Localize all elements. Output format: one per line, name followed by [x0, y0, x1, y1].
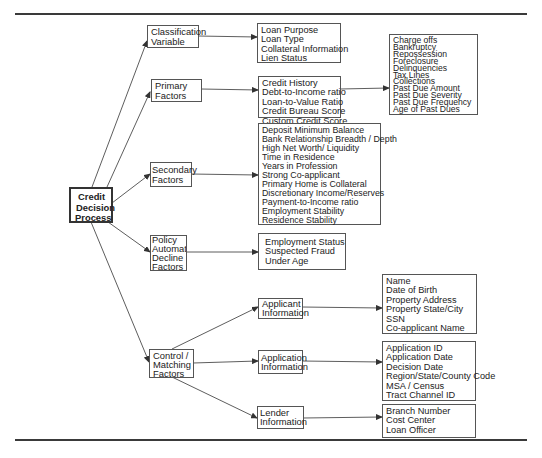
edge-control-application	[193, 361, 258, 363]
node-policy-automatic-decline-factors: Policy Automatic Decline Factors	[150, 235, 187, 271]
edge-root-classification	[92, 41, 147, 187]
list-item: Lien Status	[261, 54, 337, 63]
edge-classification-list	[198, 36, 257, 37]
node-classification-variable: Classification Variable	[147, 25, 199, 48]
node-label-line: Factors	[152, 175, 190, 185]
edge-applicant-list	[302, 307, 382, 308]
node-credit-decision-process: Credit Decision Process	[69, 187, 113, 223]
root-label-line: Credit	[75, 192, 109, 203]
list-item: Co-applicant Name	[386, 324, 473, 333]
node-label-line: Information	[261, 362, 300, 371]
edge-primarylist-subitems	[340, 88, 389, 89]
node-label-line: Factors	[153, 369, 190, 378]
node-secondary-factors: Secondary Factors	[150, 162, 192, 187]
edge-control-lender	[172, 377, 257, 418]
list-item: Loan Officer	[386, 426, 472, 435]
node-label-line: Information	[262, 308, 300, 317]
edge-lender-list	[303, 417, 382, 418]
node-label-line: Variable	[151, 37, 195, 47]
list-secondary-items: Deposit Minimum Balance Bank Relationshi…	[258, 123, 381, 225]
list-credit-history-details: Charge offs Bankruptcy Repossession Fore…	[389, 34, 478, 115]
edge-primary-list	[201, 89, 258, 90]
list-item: Under Age	[265, 257, 339, 266]
list-item: Residence Stability	[262, 216, 377, 225]
node-primary-factors: Primary Factors	[151, 79, 202, 102]
root-label-line: Process	[75, 213, 109, 224]
list-item: Tract Channel ID	[386, 391, 473, 400]
edge-root-primary	[107, 92, 150, 187]
node-label-line: Factors	[155, 91, 198, 101]
list-primary-items: Credit History Debt-to-Income ratio Loan…	[258, 76, 341, 118]
node-applicant-information: Applicant Information	[258, 298, 303, 319]
node-application-information: Application Information	[258, 350, 303, 374]
edge-secondary-list	[191, 174, 258, 175]
edge-control-applicant	[172, 307, 258, 349]
node-lender-information: Lender Information	[257, 406, 304, 429]
edge-root-secondary	[112, 174, 150, 203]
list-applicant-items: Name Date of Birth Property Address Prop…	[382, 274, 477, 334]
edge-root-control	[91, 222, 149, 362]
list-lender-items: Branch Number Cost Center Loan Officer	[382, 404, 476, 438]
node-label-line: Factors	[152, 263, 185, 271]
edge-application-list	[302, 361, 382, 362]
list-application-items: Application ID Application Date Decision…	[382, 341, 476, 401]
node-control-matching-factors: Control / Matching Factors	[149, 349, 194, 378]
node-label-line: Information	[260, 417, 301, 426]
edge-root-policy	[108, 222, 150, 252]
list-item: Age of Past Dues	[393, 106, 474, 113]
list-classification-items: Loan Purpose Loan Type Collateral Inform…	[257, 23, 341, 63]
list-policy-items: Employment Status Suspected Fraud Under …	[258, 233, 346, 270]
